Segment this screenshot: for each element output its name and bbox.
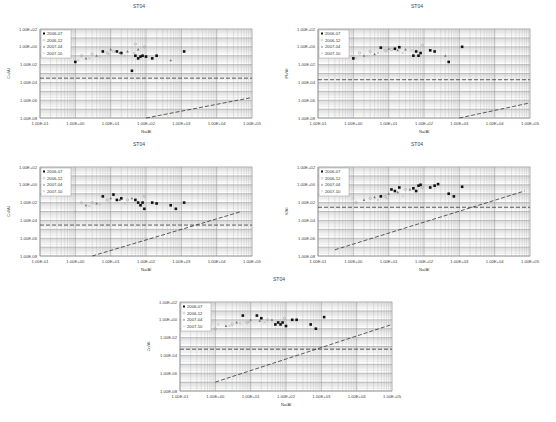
svg-text:1.00E+02: 1.00E+02 <box>159 300 178 305</box>
svg-text:1.00E+02: 1.00E+02 <box>415 259 434 264</box>
svg-text:2007-04: 2007-04 <box>325 182 341 187</box>
svg-text:1.00E-02: 1.00E-02 <box>20 200 38 205</box>
svg-text:Na/Al: Na/Al <box>419 267 429 272</box>
chart-panel-zn: ST04 1.00E-011.00E+001.00E+011.00E+021.0… <box>140 273 418 408</box>
svg-text:1.00E-02: 1.00E-02 <box>20 62 38 67</box>
svg-text:1.00E+00: 1.00E+00 <box>297 44 316 49</box>
svg-text:1.00E-04: 1.00E-04 <box>298 218 316 223</box>
svg-text:1.00E+00: 1.00E+00 <box>19 182 38 187</box>
svg-text:1.00E-08: 1.00E-08 <box>20 254 38 259</box>
svg-text:1.00E+03: 1.00E+03 <box>172 121 191 126</box>
svg-text:1.00E+04: 1.00E+04 <box>486 121 505 126</box>
scatter-plot: 1.00E-011.00E+001.00E+011.00E+021.00E+03… <box>0 0 278 135</box>
svg-text:1.00E+05: 1.00E+05 <box>521 259 540 264</box>
svg-text:Na/Al: Na/Al <box>141 267 151 272</box>
svg-text:1.00E-06: 1.00E-06 <box>20 98 38 103</box>
svg-text:1.00E+03: 1.00E+03 <box>450 121 469 126</box>
svg-text:1.00E+02: 1.00E+02 <box>19 27 38 32</box>
svg-text:1.00E-06: 1.00E-06 <box>298 98 316 103</box>
svg-text:2006-12: 2006-12 <box>47 38 63 43</box>
svg-text:1.00E+00: 1.00E+00 <box>297 182 316 187</box>
svg-text:1.00E+00: 1.00E+00 <box>344 259 363 264</box>
svg-text:Na/Al: Na/Al <box>419 129 429 134</box>
chart-legend: 2006-072006-122007-042007-10 <box>319 30 349 58</box>
svg-text:1.00E+00: 1.00E+00 <box>159 317 178 322</box>
svg-text:1.00E+00: 1.00E+00 <box>66 121 85 126</box>
svg-text:1.00E+04: 1.00E+04 <box>348 394 367 399</box>
svg-text:1.00E+01: 1.00E+01 <box>380 259 399 264</box>
svg-text:1.00E+04: 1.00E+04 <box>486 259 505 264</box>
svg-text:1.00E-06: 1.00E-06 <box>298 236 316 241</box>
chart-panel-cu: ST04 1.00E-011.00E+001.00E+011.00E+021.0… <box>0 0 278 135</box>
chart-legend: 2006-072006-122007-042007-10 <box>41 30 71 58</box>
svg-text:1.00E+00: 1.00E+00 <box>19 44 38 49</box>
svg-text:1.00E-01: 1.00E-01 <box>32 121 50 126</box>
svg-text:1.00E+00: 1.00E+00 <box>206 394 225 399</box>
svg-text:1.00E+05: 1.00E+05 <box>243 259 262 264</box>
svg-text:1.00E+04: 1.00E+04 <box>208 121 227 126</box>
svg-text:1.00E-01: 1.00E-01 <box>310 121 328 126</box>
svg-text:2007-10: 2007-10 <box>325 51 341 56</box>
svg-text:Cd/Al: Cd/Al <box>6 206 11 216</box>
svg-text:1.00E-04: 1.00E-04 <box>20 218 38 223</box>
svg-text:1.00E+02: 1.00E+02 <box>297 165 316 170</box>
svg-text:2007-04: 2007-04 <box>47 44 63 49</box>
svg-text:1.00E+02: 1.00E+02 <box>297 27 316 32</box>
figure-caption <box>170 410 390 416</box>
chart-legend: 2006-072006-122007-042007-10 <box>319 168 349 196</box>
svg-text:1.00E-08: 1.00E-08 <box>298 116 316 121</box>
svg-text:1.00E+03: 1.00E+03 <box>312 394 331 399</box>
scatter-plot: 1.00E-011.00E+001.00E+011.00E+021.00E+03… <box>278 138 556 273</box>
svg-text:1.00E+00: 1.00E+00 <box>66 259 85 264</box>
svg-text:1.00E-04: 1.00E-04 <box>20 80 38 85</box>
svg-text:1.00E+05: 1.00E+05 <box>521 121 540 126</box>
chart-panel-v: ST04 1.00E-011.00E+001.00E+011.00E+021.0… <box>278 138 556 273</box>
chart-legend: 2006-072006-122007-042007-10 <box>181 303 211 331</box>
svg-text:1.00E+01: 1.00E+01 <box>242 394 261 399</box>
chart-legend: 2006-072006-122007-042007-10 <box>41 168 71 196</box>
svg-text:1.00E-06: 1.00E-06 <box>160 371 178 376</box>
svg-text:2007-10: 2007-10 <box>187 324 203 329</box>
svg-text:1.00E-04: 1.00E-04 <box>160 353 178 358</box>
svg-text:1.00E+01: 1.00E+01 <box>380 121 399 126</box>
svg-text:Na/Al: Na/Al <box>141 129 151 134</box>
svg-text:1.00E+00: 1.00E+00 <box>344 121 363 126</box>
svg-text:Zn/Al: Zn/Al <box>146 342 151 352</box>
svg-text:1.00E+03: 1.00E+03 <box>172 259 191 264</box>
svg-text:2006-12: 2006-12 <box>47 176 63 181</box>
svg-text:2007-10: 2007-10 <box>47 189 63 194</box>
svg-text:1.00E+01: 1.00E+01 <box>102 121 121 126</box>
svg-text:1.00E-06: 1.00E-06 <box>20 236 38 241</box>
svg-text:1.00E-04: 1.00E-04 <box>298 80 316 85</box>
svg-text:1.00E+02: 1.00E+02 <box>19 165 38 170</box>
svg-text:Pb/Al: Pb/Al <box>284 68 289 78</box>
svg-text:V/Al: V/Al <box>284 208 289 216</box>
svg-text:2006-07: 2006-07 <box>325 31 341 36</box>
svg-text:1.00E-08: 1.00E-08 <box>20 116 38 121</box>
svg-text:2006-07: 2006-07 <box>47 31 63 36</box>
svg-text:2006-12: 2006-12 <box>187 311 203 316</box>
svg-text:1.00E-01: 1.00E-01 <box>32 259 50 264</box>
svg-text:1.00E-01: 1.00E-01 <box>172 394 190 399</box>
svg-text:1.00E+02: 1.00E+02 <box>415 121 434 126</box>
svg-text:2006-12: 2006-12 <box>325 176 341 181</box>
svg-text:1.00E+02: 1.00E+02 <box>137 121 156 126</box>
chart-panel-cd: ST04 1.00E-011.00E+001.00E+011.00E+021.0… <box>0 138 278 273</box>
svg-text:1.00E+01: 1.00E+01 <box>102 259 121 264</box>
scatter-plot: 1.00E-011.00E+001.00E+011.00E+021.00E+03… <box>278 0 556 135</box>
svg-text:2007-10: 2007-10 <box>325 189 341 194</box>
svg-text:2006-12: 2006-12 <box>325 38 341 43</box>
scatter-plot: 1.00E-011.00E+001.00E+011.00E+021.00E+03… <box>0 138 278 273</box>
svg-text:2007-04: 2007-04 <box>47 182 63 187</box>
svg-text:1.00E+02: 1.00E+02 <box>277 394 296 399</box>
svg-text:2007-10: 2007-10 <box>47 51 63 56</box>
svg-text:1.00E-02: 1.00E-02 <box>298 62 316 67</box>
svg-text:1.00E+04: 1.00E+04 <box>208 259 227 264</box>
svg-text:2006-07: 2006-07 <box>47 169 63 174</box>
svg-text:Cu/Al: Cu/Al <box>6 68 11 78</box>
svg-text:1.00E+03: 1.00E+03 <box>450 259 469 264</box>
svg-text:1.00E-08: 1.00E-08 <box>160 389 178 394</box>
svg-text:1.00E+05: 1.00E+05 <box>243 121 262 126</box>
chart-panel-pb: ST04 1.00E-011.00E+001.00E+011.00E+021.0… <box>278 0 556 135</box>
svg-text:1.00E-08: 1.00E-08 <box>298 254 316 259</box>
